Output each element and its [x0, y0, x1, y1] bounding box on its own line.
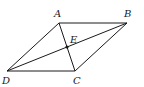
- point-e-dot: [65, 45, 68, 48]
- parallelogram-diagram: A B C D E: [0, 0, 144, 87]
- segment-bc: [75, 23, 127, 71]
- label-c: C: [73, 75, 81, 86]
- segment-da: [7, 23, 59, 71]
- label-b: B: [123, 8, 131, 19]
- label-e: E: [69, 34, 78, 45]
- label-d: D: [1, 75, 10, 86]
- label-a: A: [53, 8, 61, 19]
